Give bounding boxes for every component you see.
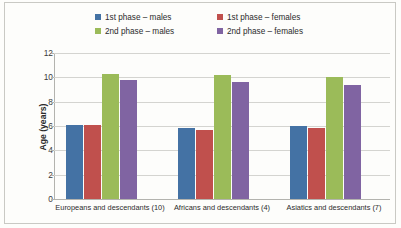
legend-label: 1st phase – females	[227, 13, 300, 22]
bar[interactable]	[84, 125, 101, 199]
legend-label: 1st phase – males	[105, 13, 171, 22]
y-axis-tick-label: 4	[29, 145, 53, 155]
legend-swatch-icon	[217, 14, 223, 20]
chart-frame: 1st phase – males1st phase – females2nd …	[4, 2, 396, 224]
y-axis-tick-label: 12	[29, 48, 53, 58]
y-axis-tick-mark	[51, 126, 54, 127]
y-axis-tick-mark	[51, 53, 54, 54]
y-axis-tick-label: 0	[29, 194, 53, 204]
y-axis-tick-mark	[51, 199, 54, 200]
bar[interactable]	[196, 130, 213, 199]
y-axis-tick-mark	[51, 77, 54, 78]
bar[interactable]	[308, 128, 325, 199]
x-axis-category-label: Europeans and descendants (10)	[54, 203, 166, 212]
bar-group	[290, 52, 361, 199]
legend-item[interactable]: 2nd phase – females	[217, 24, 339, 38]
bar[interactable]	[290, 126, 307, 199]
legend-swatch-icon	[95, 14, 101, 20]
y-axis-tick-mark	[51, 102, 54, 103]
plot-area: Age (years) 024681012Europeans and desce…	[54, 53, 390, 200]
y-axis-tick-label: 10	[29, 72, 53, 82]
y-axis-tick-label: 2	[29, 170, 53, 180]
legend-label: 2nd phase – males	[105, 27, 174, 36]
bar-group	[178, 52, 249, 199]
y-axis-tick-mark	[51, 175, 54, 176]
bar[interactable]	[214, 75, 231, 199]
bar[interactable]	[120, 80, 137, 199]
x-axis-category-label: Asiatics and descendants (7)	[278, 203, 390, 212]
bar[interactable]	[102, 74, 119, 199]
bar[interactable]	[66, 125, 83, 199]
y-axis-tick-label: 8	[29, 97, 53, 107]
bar[interactable]	[178, 128, 195, 199]
legend-item[interactable]: 1st phase – males	[95, 10, 217, 24]
legend-label: 2nd phase – females	[227, 27, 303, 36]
legend-swatch-icon	[95, 28, 101, 34]
legend-item[interactable]: 1st phase – females	[217, 10, 339, 24]
y-axis-tick-mark	[51, 150, 54, 151]
bar-group	[66, 52, 137, 199]
chart-legend: 1st phase – males1st phase – females2nd …	[95, 10, 345, 38]
x-axis-line	[54, 199, 390, 200]
legend-swatch-icon	[217, 28, 223, 34]
bar[interactable]	[232, 82, 249, 199]
y-axis-tick-label: 6	[29, 121, 53, 131]
bar[interactable]	[344, 85, 361, 199]
x-axis-category-label: Africans and descendants (4)	[166, 203, 278, 212]
legend-item[interactable]: 2nd phase – males	[95, 24, 217, 38]
bar[interactable]	[326, 77, 343, 199]
